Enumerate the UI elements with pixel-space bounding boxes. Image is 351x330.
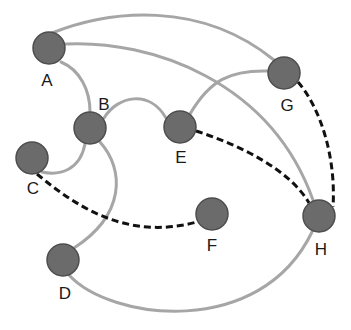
node-d-label: D (59, 284, 71, 303)
node-h[interactable]: H (303, 200, 335, 259)
node-b-label: B (98, 95, 109, 114)
edge-e-h (196, 131, 309, 203)
node-c-label: C (27, 179, 39, 198)
edge-b-e (104, 99, 166, 118)
edge-d-h (69, 232, 312, 311)
node-g-label: G (280, 96, 293, 115)
node-e-label: E (175, 148, 186, 167)
edge-a-b (61, 62, 90, 112)
node-d[interactable]: D (47, 244, 79, 303)
node-b[interactable]: B (74, 95, 110, 144)
graph-diagram: A B C D E F G H (0, 0, 351, 330)
edge-a-g (52, 15, 274, 60)
node-a-label: A (41, 71, 53, 90)
node-e[interactable]: E (164, 111, 196, 167)
node-f[interactable]: F (196, 198, 228, 255)
node-g[interactable]: G (268, 57, 300, 115)
node-f-label: F (207, 236, 217, 255)
edge-e-g (190, 71, 268, 114)
node-h-label: H (315, 240, 327, 259)
node-c[interactable]: C (16, 142, 48, 198)
nodes: A B C D E F G H (16, 32, 335, 303)
edge-g-h (298, 82, 333, 207)
